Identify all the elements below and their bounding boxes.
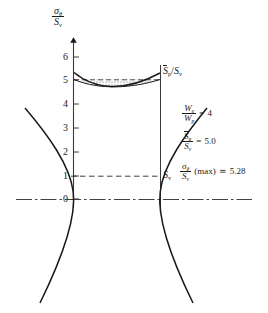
y-tick-label-1: 1 bbox=[56, 171, 68, 181]
note-max-value: 5.28 bbox=[230, 167, 246, 176]
note-max-den: S bbox=[182, 171, 187, 181]
note-we-value: 4 bbox=[207, 109, 212, 118]
axis-title-denominator-sub: v bbox=[59, 21, 62, 28]
note-ratio-sp-sv: Sp Sv = 5.0 bbox=[182, 132, 216, 151]
note-sigma-max: σθ Sv (max) ≃ 5.28 bbox=[180, 162, 245, 181]
note-max-den-sub: v bbox=[187, 176, 189, 182]
note-we-num: W bbox=[184, 103, 192, 113]
y-tick-label-3: 3 bbox=[56, 123, 68, 133]
band-label-numerator-sub: p bbox=[168, 70, 171, 77]
band-label-denominator-sub: v bbox=[179, 70, 182, 77]
y-tick-label-6: 6 bbox=[56, 52, 68, 62]
y-axis-title: σθ Sv bbox=[52, 6, 64, 27]
note-sp-num: S bbox=[184, 132, 189, 141]
note-sp-equals: = bbox=[196, 137, 201, 146]
left-sidewall-curve bbox=[25, 108, 74, 303]
note-max-num-sub: θ bbox=[186, 166, 189, 172]
note-we-equals: = bbox=[199, 109, 204, 118]
plot-canvas bbox=[0, 0, 268, 313]
note-sp-value: 5.0 bbox=[204, 137, 215, 146]
stress-distribution-figure: σθ Sv 6 5 4 3 2 1 0 Sp/Sv Sv We Wp = 4 S… bbox=[0, 0, 268, 313]
note-sp-den: S bbox=[184, 142, 189, 151]
band-label: Sp/Sv bbox=[163, 66, 182, 76]
note-ratio-we-wp: We Wp = 4 bbox=[182, 104, 212, 123]
y-axis-ticks bbox=[74, 57, 80, 199]
note-sp-den-sub: v bbox=[189, 146, 191, 152]
sv-marker-sub: v bbox=[168, 174, 171, 181]
note-we-den: W bbox=[184, 113, 192, 123]
note-max-qualifier: (max) bbox=[194, 167, 216, 176]
note-we-num-sub: e bbox=[192, 108, 194, 114]
note-max-equals: ≃ bbox=[219, 167, 227, 176]
sv-marker-label: Sv bbox=[163, 170, 171, 180]
y-tick-label-4: 4 bbox=[56, 99, 68, 109]
y-tick-label-0: 0 bbox=[56, 194, 68, 204]
y-tick-label-2: 2 bbox=[56, 147, 68, 157]
note-we-den-sub: p bbox=[192, 118, 195, 124]
axis-title-numerator-sub: θ bbox=[59, 10, 62, 17]
y-tick-label-5: 5 bbox=[56, 75, 68, 85]
